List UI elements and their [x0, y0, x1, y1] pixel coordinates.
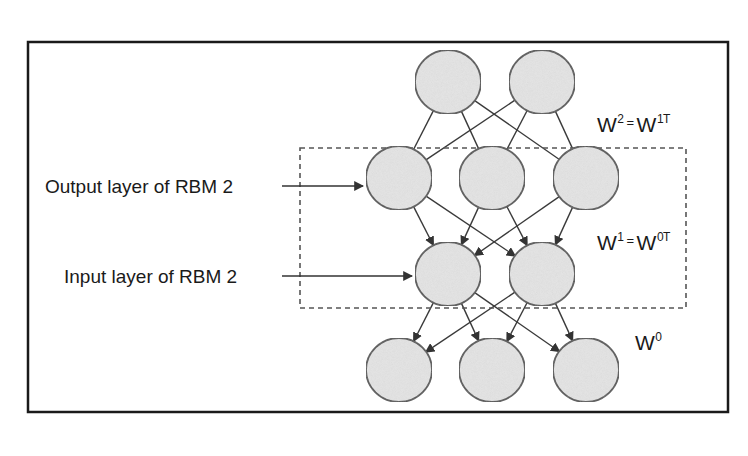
undirected-edge [507, 109, 528, 150]
neuron-rbm2-output [459, 146, 525, 210]
directed-edge [506, 205, 527, 246]
directed-edge [461, 206, 479, 245]
directed-edge [555, 206, 573, 245]
undirected-edge [555, 110, 573, 149]
neuron-top [415, 50, 481, 114]
neuron-rbm2-output [553, 146, 619, 210]
undirected-edge [414, 109, 435, 149]
neuron-rbm2-input [509, 242, 575, 306]
neuron-bottom [459, 338, 525, 402]
weight-label-w2: W2=W1T [597, 112, 670, 137]
directed-edge [413, 205, 434, 245]
neurons [366, 50, 619, 402]
dbn-diagram [0, 0, 748, 456]
neuron-bottom [366, 338, 432, 402]
weight-label-w1: W1=W0T [597, 230, 670, 255]
undirected-edge [461, 110, 479, 149]
weight-label-w0: W0 [635, 330, 662, 355]
neuron-rbm2-input [415, 242, 481, 306]
connections [413, 99, 574, 352]
neuron-rbm2-output [366, 146, 432, 210]
directed-edge [414, 301, 435, 341]
input-layer-label: Input layer of RBM 2 [64, 266, 237, 288]
neuron-top [509, 50, 575, 114]
output-layer-label: Output layer of RBM 2 [45, 176, 233, 198]
directed-edge [507, 301, 528, 342]
neuron-bottom [553, 338, 619, 402]
